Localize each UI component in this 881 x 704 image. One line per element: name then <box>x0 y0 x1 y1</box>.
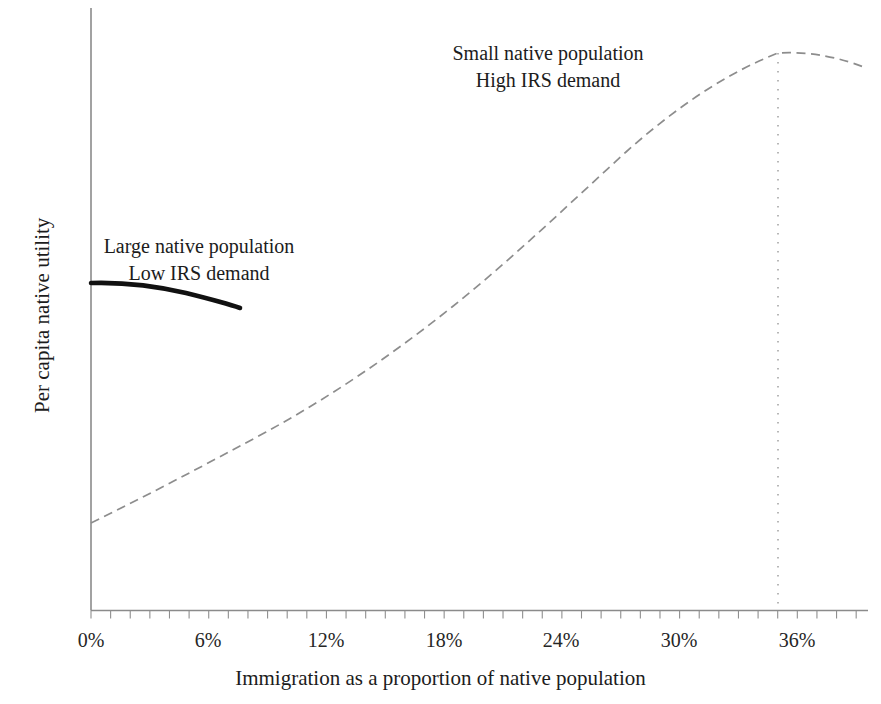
x-tick-label-0: 0% <box>78 630 105 650</box>
curve-small-native-population <box>91 53 866 523</box>
x-tick-label-36: 36% <box>779 630 816 650</box>
x-axis-title: Immigration as a proportion of native po… <box>0 666 881 691</box>
large-native-population-label-line1: Large native population <box>104 233 295 260</box>
x-tick-label-18: 18% <box>426 630 463 650</box>
small-native-population-label-line2: High IRS demand <box>452 67 643 94</box>
chart-figure: 0% 6% 12% 18% 24% 30% 36% Immigration as… <box>0 0 881 704</box>
large-native-population-label-line2: Low IRS demand <box>104 260 295 287</box>
x-tick-label-30: 30% <box>661 630 698 650</box>
chart-plot-area <box>0 0 881 704</box>
x-tick-label-24: 24% <box>543 630 580 650</box>
x-tick-label-6: 6% <box>195 630 222 650</box>
x-axis-tick-marks <box>91 611 856 619</box>
small-native-population-label: Small native population High IRS demand <box>452 40 643 94</box>
large-native-population-label: Large native population Low IRS demand <box>104 233 295 287</box>
y-axis-title: Per capita native utility <box>30 218 55 413</box>
small-native-population-label-line1: Small native population <box>452 40 643 67</box>
x-tick-label-12: 12% <box>308 630 345 650</box>
